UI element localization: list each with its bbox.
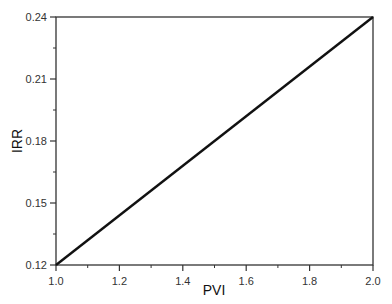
y-tick-label: 0.24 <box>26 11 47 23</box>
y-tick-label: 0.15 <box>26 197 47 209</box>
data-line <box>56 17 373 265</box>
line-chart: 0.120.150.180.210.24 1.01.21.41.61.82.0 … <box>0 0 392 304</box>
y-tick-label: 0.21 <box>26 73 47 85</box>
y-axis-label: IRR <box>9 129 25 153</box>
y-tick-label: 0.12 <box>26 259 47 271</box>
x-tick-label: 1.8 <box>302 275 317 287</box>
y-tick-label: 0.18 <box>26 135 47 147</box>
x-tick-label: 1.2 <box>112 275 127 287</box>
x-tick-label: 2.0 <box>365 275 380 287</box>
x-tick-label: 1.4 <box>175 275 190 287</box>
y-axis: 0.120.150.180.210.24 <box>26 11 56 271</box>
x-tick-label: 1.6 <box>239 275 254 287</box>
x-tick-label: 1.0 <box>48 275 63 287</box>
x-axis-label: PVI <box>203 282 226 298</box>
